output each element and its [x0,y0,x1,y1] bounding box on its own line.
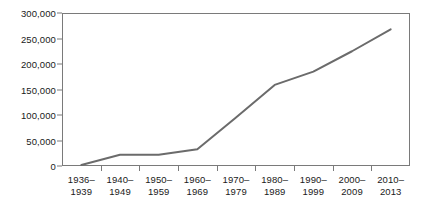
y-tick-mark [57,13,62,14]
x-tick-mark [139,166,140,171]
line-series-path [81,29,390,165]
x-tick-mark [178,166,179,171]
x-tick-mark [371,166,372,171]
x-tick-mark [217,166,218,171]
y-tick-mark [57,89,62,90]
x-tick-mark [294,166,295,171]
y-tick-mark [57,38,62,39]
y-tick-mark [57,166,62,167]
x-tick-mark [255,166,256,171]
y-tick-mark [57,115,62,116]
chart-screenshot: 050,000100,000150,000200,000250,000300,0… [0,0,421,209]
y-tick-mark [57,140,62,141]
x-tick-mark [333,166,334,171]
x-tick-mark [101,166,102,171]
y-tick-mark [57,64,62,65]
line-series-layer [0,0,421,209]
